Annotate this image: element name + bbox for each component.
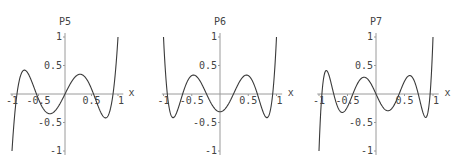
- x-tick-label: -0.5: [27, 96, 51, 106]
- x-tick-label: -0.5: [180, 96, 204, 106]
- x-tick-label: -1: [6, 96, 18, 106]
- y-tick-label: 0.5: [355, 61, 373, 71]
- plot-p7-graphics: [317, 33, 438, 155]
- y-tick-label: 0.5: [44, 61, 62, 71]
- y-tick-label: -0.5: [193, 118, 217, 128]
- x-tick-label: 1: [118, 96, 124, 106]
- plot-p5-graphics: [10, 33, 123, 155]
- x-tick-label: -1: [313, 96, 325, 106]
- plot-title-p5: P5: [59, 17, 71, 27]
- x-tick-label: -1: [158, 96, 170, 106]
- x-tick-label: 1: [277, 96, 283, 106]
- x-tick-label: 0.5: [239, 96, 257, 106]
- y-tick-label: -1: [361, 146, 373, 156]
- x-tick-label: -0.5: [336, 96, 360, 106]
- plot-p6-graphics: [162, 33, 282, 155]
- y-tick-label: 1: [211, 32, 217, 42]
- x-axis-label: x: [444, 88, 450, 98]
- x-tick-label: 1: [433, 96, 439, 106]
- x-axis-label: x: [129, 88, 135, 98]
- x-axis-label: x: [288, 88, 294, 98]
- y-tick-label: -0.5: [349, 118, 373, 128]
- y-tick-label: -0.5: [38, 118, 62, 128]
- y-tick-label: 0.5: [199, 61, 217, 71]
- x-tick-label: 0.5: [83, 96, 101, 106]
- y-tick-label: -1: [50, 146, 62, 156]
- y-tick-label: 1: [367, 32, 373, 42]
- y-tick-label: -1: [205, 146, 217, 156]
- plot-title-p6: P6: [214, 17, 226, 27]
- x-tick-label: 0.5: [396, 96, 414, 106]
- plot-title-p7: P7: [370, 17, 382, 27]
- y-tick-label: 1: [56, 32, 62, 42]
